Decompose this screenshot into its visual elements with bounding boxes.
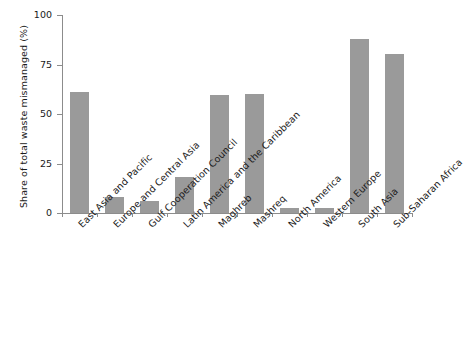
bar — [70, 92, 89, 213]
y-tick-label-50: 50 — [12, 109, 52, 119]
y-tick-label-0: 0 — [12, 208, 52, 218]
y-tick-label-75: 75 — [12, 60, 52, 70]
x-tick — [62, 213, 63, 217]
y-tick-label-100: 100 — [12, 10, 52, 20]
y-tick-label-25: 25 — [12, 159, 52, 169]
